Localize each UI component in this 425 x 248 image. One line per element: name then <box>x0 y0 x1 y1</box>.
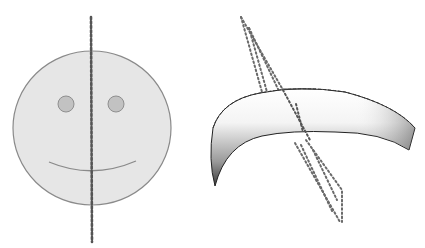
slanted-plane-top <box>241 17 283 92</box>
symmetry-line <box>91 17 92 242</box>
right-eye <box>108 96 124 112</box>
diagram-canvas <box>0 0 425 248</box>
left-eye <box>58 96 74 112</box>
diagram-svg <box>0 0 425 248</box>
smiley-face-figure <box>13 17 171 242</box>
slanted-plane-bottom <box>295 140 342 222</box>
curved-solid-figure <box>211 17 415 222</box>
